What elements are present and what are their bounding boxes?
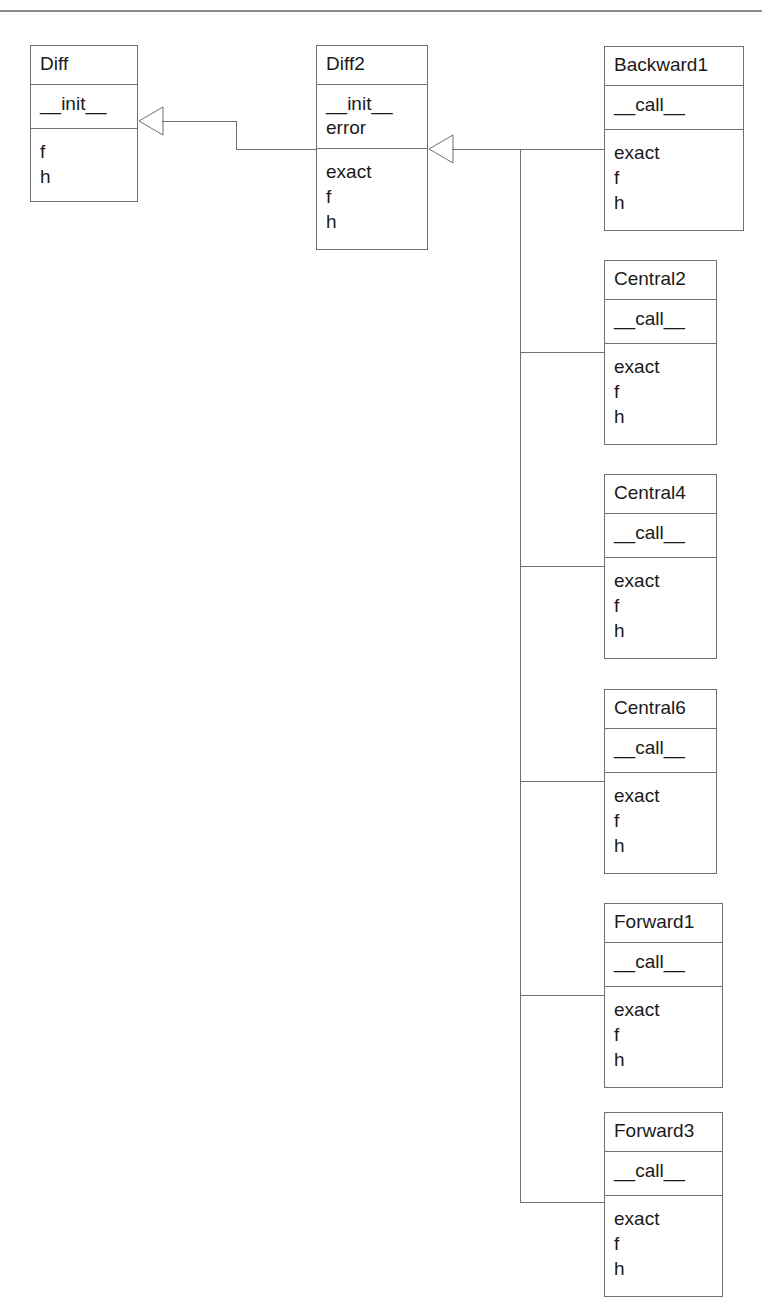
attribute-item: h <box>614 618 707 643</box>
class-name-compartment: Forward3 <box>605 1113 722 1152</box>
uml-class-diagram: Diff __init__ f h Diff2 __init__ error e… <box>0 0 762 1314</box>
class-operations-compartment: __call__ <box>605 514 716 558</box>
class-name-compartment: Diff2 <box>317 46 427 85</box>
attribute-item: h <box>326 209 418 234</box>
operation-item: __call__ <box>614 307 707 331</box>
attribute-item: f <box>614 593 707 618</box>
class-operations-compartment: __call__ <box>605 943 722 987</box>
class-operations-compartment: __call__ <box>605 300 716 344</box>
class-attributes-compartment: f h <box>31 129 137 201</box>
class-name-compartment: Forward1 <box>605 904 722 943</box>
class-attributes-compartment: exact f h <box>605 987 722 1087</box>
attribute-item: f <box>614 379 707 404</box>
class-name-compartment: Backward1 <box>605 47 743 86</box>
class-box-forward1[interactable]: Forward1 __call__ exact f h <box>604 903 723 1088</box>
attribute-item: h <box>614 833 707 858</box>
operation-item: __call__ <box>614 521 707 545</box>
operation-item: __call__ <box>614 1159 713 1183</box>
class-attributes-compartment: exact f h <box>605 344 716 444</box>
attribute-item: h <box>40 164 128 189</box>
attribute-item: h <box>614 1047 713 1072</box>
attribute-item: f <box>614 1231 713 1256</box>
operation-item: __call__ <box>614 93 734 117</box>
class-name-compartment: Central2 <box>605 261 716 300</box>
attribute-item: f <box>40 139 128 164</box>
class-name-compartment: Diff <box>31 46 137 85</box>
class-name: Backward1 <box>614 53 734 76</box>
generalization-branch-forward3 <box>520 1202 605 1203</box>
generalization-stem-diff2 <box>452 149 521 150</box>
class-attributes-compartment: exact f h <box>605 773 716 873</box>
operation-item: __init__ <box>40 92 128 116</box>
attribute-item: exact <box>614 568 707 593</box>
attribute-item: exact <box>614 997 713 1022</box>
class-name-compartment: Central6 <box>605 690 716 729</box>
class-name: Diff <box>40 52 128 75</box>
class-box-forward3[interactable]: Forward3 __call__ exact f h <box>604 1112 723 1297</box>
attribute-item: exact <box>614 1206 713 1231</box>
generalization-segment-diff2-c <box>236 149 316 150</box>
generalization-segment-diff2-b <box>236 121 237 149</box>
attribute-item: exact <box>326 159 418 184</box>
class-operations-compartment: __call__ <box>605 86 743 130</box>
class-operations-compartment: __init__ error <box>317 85 427 149</box>
class-attributes-compartment: exact f h <box>605 130 743 230</box>
class-box-central6[interactable]: Central6 __call__ exact f h <box>604 689 717 874</box>
class-box-central4[interactable]: Central4 __call__ exact f h <box>604 474 717 659</box>
class-name: Central6 <box>614 696 707 719</box>
generalization-branch-forward1 <box>520 995 605 996</box>
page-divider-rule <box>0 10 762 12</box>
class-name-compartment: Central4 <box>605 475 716 514</box>
class-operations-compartment: __call__ <box>605 729 716 773</box>
generalization-trunk <box>520 149 521 1202</box>
generalization-arrowhead-diff <box>138 106 164 136</box>
generalization-arrowhead-diff2 <box>428 134 454 164</box>
class-box-diff2[interactable]: Diff2 __init__ error exact f h <box>316 45 428 250</box>
class-name: Forward1 <box>614 910 713 933</box>
attribute-item: f <box>326 184 418 209</box>
operation-item: __call__ <box>614 950 713 974</box>
operation-item: error <box>326 116 418 140</box>
class-attributes-compartment: exact f h <box>605 558 716 658</box>
class-name: Central4 <box>614 481 707 504</box>
class-name: Forward3 <box>614 1119 713 1142</box>
generalization-branch-central2 <box>520 352 605 353</box>
class-box-central2[interactable]: Central2 __call__ exact f h <box>604 260 717 445</box>
attribute-item: f <box>614 808 707 833</box>
class-box-diff[interactable]: Diff __init__ f h <box>30 45 138 202</box>
class-name: Diff2 <box>326 52 418 75</box>
operation-item: __init__ <box>326 92 418 116</box>
attribute-item: exact <box>614 354 707 379</box>
attribute-item: h <box>614 190 734 215</box>
generalization-segment-diff2-a <box>162 121 236 122</box>
attribute-item: h <box>614 1256 713 1281</box>
class-operations-compartment: __call__ <box>605 1152 722 1196</box>
attribute-item: h <box>614 404 707 429</box>
generalization-branch-backward1 <box>520 149 605 150</box>
attribute-item: f <box>614 165 734 190</box>
class-attributes-compartment: exact f h <box>605 1196 722 1296</box>
attribute-item: exact <box>614 140 734 165</box>
operation-item: __call__ <box>614 736 707 760</box>
class-box-backward1[interactable]: Backward1 __call__ exact f h <box>604 46 744 231</box>
attribute-item: exact <box>614 783 707 808</box>
class-operations-compartment: __init__ <box>31 85 137 129</box>
attribute-item: f <box>614 1022 713 1047</box>
generalization-branch-central6 <box>520 781 605 782</box>
class-name: Central2 <box>614 267 707 290</box>
generalization-branch-central4 <box>520 566 605 567</box>
class-attributes-compartment: exact f h <box>317 149 427 249</box>
